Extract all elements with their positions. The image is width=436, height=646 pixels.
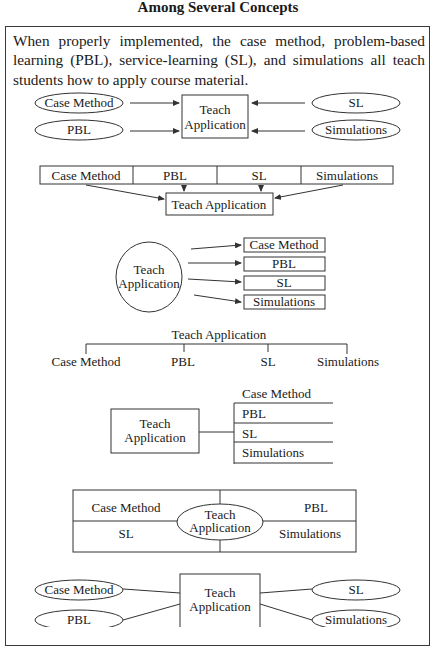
label-sl: SL [348, 582, 363, 597]
diagram-circle-arrows: Teach Application Case Method PBL SL Sim… [116, 237, 325, 312]
diagram-hierarchy: Teach Application Case Method PBL SL Sim… [52, 327, 380, 369]
center-line1: Teach [200, 102, 231, 117]
center-line2: Application [189, 520, 251, 535]
center-line1: Teach [134, 262, 165, 277]
label-simulations: Simulations [325, 612, 387, 627]
diagram-ovals-arrows: Case Method PBL SL Simulations Teach App… [35, 93, 400, 140]
quadrant-pbl: PBL [304, 500, 328, 515]
label-simulations: Simulations [253, 294, 315, 309]
label-case-method: Case Method [52, 354, 121, 369]
cell-case-method: Case Method [52, 168, 121, 183]
list-item-simulations: Simulations [242, 445, 304, 460]
label-case-method: Case Method [45, 95, 114, 110]
label-simulations: Simulations [317, 354, 379, 369]
label-pbl: PBL [67, 122, 91, 137]
center-label: Teach Application [172, 327, 267, 342]
label-sl: SL [348, 95, 363, 110]
cell-simulations: Simulations [316, 168, 378, 183]
cell-sl: SL [251, 168, 266, 183]
list-item-case-method: Case Method [242, 386, 311, 401]
center-line1: Teach [140, 416, 171, 431]
cell-pbl: PBL [163, 168, 187, 183]
quadrant-case-method: Case Method [92, 500, 161, 515]
diagram-box-list: Teach Application Case Method PBL SL Sim… [111, 386, 333, 464]
label-case-method: Case Method [250, 237, 319, 252]
label-sl: SL [276, 275, 291, 290]
quadrant-sl: SL [118, 526, 133, 541]
label-pbl: PBL [272, 256, 296, 271]
label-case-method: Case Method [45, 582, 114, 597]
label-pbl: PBL [171, 354, 195, 369]
center-line2: Application [124, 430, 186, 445]
center-line2: Application [189, 599, 251, 614]
list-item-sl: SL [242, 426, 257, 441]
label-sl: SL [260, 354, 275, 369]
label-simulations: Simulations [325, 122, 387, 137]
label-pbl: PBL [67, 612, 91, 627]
diagram-quadrants: Teach Application Case Method PBL SL Sim… [73, 490, 356, 552]
center-line2: Application [184, 117, 246, 132]
center-label: Teach Application [172, 197, 267, 212]
diagram-row-arrows: Case Method PBL SL Simulations Teach App… [40, 166, 393, 215]
center-line1: Teach [205, 585, 236, 600]
list-item-pbl: PBL [242, 406, 266, 421]
center-line2: Application [118, 276, 180, 291]
quadrant-simulations: Simulations [279, 526, 341, 541]
diagram-ovals-lines: Case Method PBL SL Simulations Teach App… [35, 574, 400, 627]
